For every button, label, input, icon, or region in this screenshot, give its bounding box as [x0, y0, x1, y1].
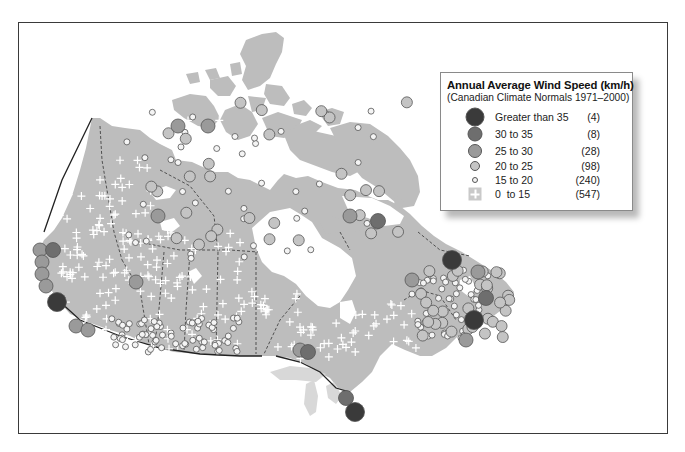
dark-circle-icon [466, 107, 485, 126]
legend-rows: Greater than 35 (4) 30 to 35 (8) 25 to 3… [447, 108, 628, 201]
light-circle-icon [470, 161, 480, 171]
legend-row-20-25: 20 to 25 (98) [447, 159, 628, 173]
legend-row-15-20: 15 to 20 (240) [447, 173, 628, 187]
legend-label: 25 to 30 [495, 145, 533, 157]
legend-row-25-30: 25 to 30 (28) [447, 142, 628, 159]
medium-circle-icon [468, 144, 482, 158]
legend-count: (98) [581, 160, 600, 172]
legend-label: 15 to 20 [495, 174, 533, 186]
canada-map [0, 0, 685, 452]
legend-count: (8) [587, 128, 600, 140]
medium-dark-circle-icon [468, 126, 483, 141]
legend-count: (28) [581, 145, 600, 157]
legend-label: 20 to 25 [495, 160, 533, 172]
legend-count: (240) [575, 174, 600, 186]
legend-row-0-15: 0 to 15 (547) [447, 187, 628, 201]
plus-icon [469, 188, 482, 201]
legend-label: Greater than 35 [495, 111, 569, 123]
legend-label: 30 to 35 [495, 128, 533, 140]
legend: Annual Average Wind Speed (km/h) (Canadi… [440, 72, 633, 211]
legend-count: (547) [575, 188, 600, 200]
legend-title: Annual Average Wind Speed (km/h) [447, 79, 628, 91]
small-white-circle-icon [472, 177, 478, 183]
legend-subtitle: (Canadian Climate Normals 1971–2000) [447, 92, 628, 103]
legend-row-gt35: Greater than 35 (4) [447, 108, 628, 125]
legend-row-30-35: 30 to 35 (8) [447, 125, 628, 142]
legend-count: (4) [587, 111, 600, 123]
legend-label: 0 to 15 [495, 188, 530, 200]
